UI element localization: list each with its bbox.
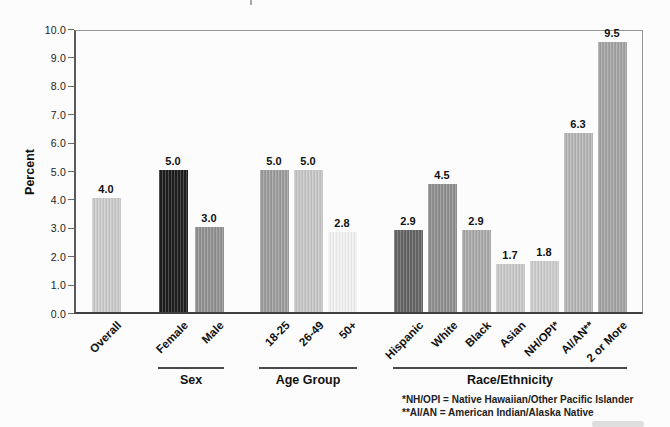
bar-26-49: [294, 170, 323, 312]
bar-hispanic: [394, 230, 423, 312]
bar-ai-an: [564, 133, 593, 312]
bar-chart-figure: Percent 4.05.03.05.05.02.82.94.52.91.71.…: [0, 0, 670, 427]
y-tick-mark-6-0: [68, 143, 74, 144]
group-underline-race-ethnicity: [393, 367, 627, 369]
bar-value-26-49: 5.0: [288, 155, 328, 167]
y-tick-label-10-0: 10.0: [30, 24, 66, 36]
bar-white: [428, 184, 457, 312]
y-tick-mark-9-0: [68, 57, 74, 58]
x-label-female: Female: [154, 319, 191, 356]
x-label-male: Male: [200, 319, 227, 346]
bar-asian: [496, 264, 525, 312]
bar-value-hispanic: 2.9: [388, 215, 428, 227]
group-underline-age-group: [259, 367, 357, 369]
bar-nh-opi: [530, 261, 559, 312]
x-label-18-25: 18-25: [262, 319, 291, 348]
scan-smudge: [592, 421, 644, 427]
group-underline-sex: [158, 367, 224, 369]
y-tick-mark-5-0: [68, 171, 74, 172]
x-label-hispanic: Hispanic: [383, 319, 425, 361]
bar-male: [195, 227, 224, 312]
y-tick-mark-2-0: [68, 256, 74, 257]
bar-value-nh-opi: 1.8: [524, 246, 564, 258]
bar-value-overall: 4.0: [86, 183, 126, 195]
x-label-white: White: [429, 319, 460, 350]
x-label-26-49: 26-49: [296, 319, 325, 348]
bar-value-2-or-more: 9.5: [592, 27, 632, 39]
y-tick-label-5-0: 5.0: [30, 166, 66, 178]
y-tick-label-1-0: 1.0: [30, 279, 66, 291]
group-label-sex: Sex: [158, 373, 224, 387]
x-label-asian: Asian: [497, 319, 528, 350]
y-tick-label-6-0: 6.0: [30, 137, 66, 149]
y-tick-label-3-0: 3.0: [30, 222, 66, 234]
bar-value-female: 5.0: [153, 155, 193, 167]
y-tick-mark-4-0: [68, 199, 74, 200]
bar-value-male: 3.0: [189, 212, 229, 224]
group-label-race-ethnicity: Race/Ethnicity: [393, 373, 627, 387]
y-tick-mark-8-0: [68, 86, 74, 87]
y-tick-mark-7-0: [68, 114, 74, 115]
plot-area: 4.05.03.05.05.02.82.94.52.91.71.86.39.5: [74, 30, 643, 314]
bar-value-50: 2.8: [322, 217, 362, 229]
bar-female: [159, 170, 188, 312]
bar-50: [328, 232, 357, 312]
y-tick-label-4-0: 4.0: [30, 194, 66, 206]
y-tick-label-9-0: 9.0: [30, 52, 66, 64]
y-tick-label-0-0: 0.0: [30, 308, 66, 320]
bar-value-ai-an: 6.3: [558, 118, 598, 130]
y-tick-label-8-0: 8.0: [30, 80, 66, 92]
x-label-50: 50+: [337, 319, 359, 341]
x-label-nh-opi: NH/OPI*: [522, 319, 562, 359]
group-label-age-group: Age Group: [259, 373, 357, 387]
y-tick-label-2-0: 2.0: [30, 251, 66, 263]
bar-value-black: 2.9: [456, 215, 496, 227]
footnote-nhopi: *NH/OPI = Native Hawaiian/Other Pacific …: [402, 393, 633, 406]
y-tick-mark-1-0: [68, 285, 74, 286]
footnotes: *NH/OPI = Native Hawaiian/Other Pacific …: [402, 393, 633, 419]
bar-18-25: [260, 170, 289, 312]
x-label-overall: Overall: [87, 319, 123, 355]
footnote-aian: **AI/AN = American Indian/Alaska Native: [402, 406, 633, 419]
bar-value-white: 4.5: [422, 169, 462, 181]
y-tick-label-7-0: 7.0: [30, 109, 66, 121]
x-label-black: Black: [463, 319, 493, 349]
bar-2-or-more: [598, 42, 627, 312]
y-tick-mark-3-0: [68, 228, 74, 229]
y-tick-mark-10-0: [68, 29, 74, 30]
bar-black: [462, 230, 491, 312]
bar-overall: [92, 198, 121, 312]
cropped-title-artifact: [250, 0, 252, 5]
y-tick-mark-0-0: [68, 313, 74, 314]
